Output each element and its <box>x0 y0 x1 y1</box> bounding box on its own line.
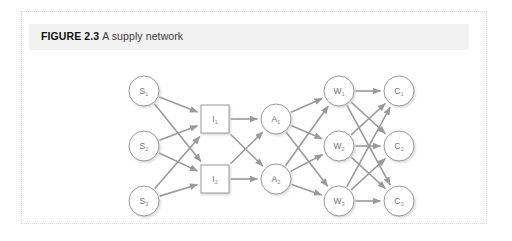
network-node-w2: W2 <box>324 131 354 161</box>
network-edge <box>159 97 197 112</box>
supply-network-diagram: S1S2S3I1I2A1A2W1W2W3C1C2C3 <box>22 12 488 225</box>
node-subscript: 1 <box>277 119 280 125</box>
network-node-s2: S2 <box>129 131 159 161</box>
node-subscript: 3 <box>401 201 404 207</box>
node-subscript: 1 <box>401 91 404 97</box>
network-edge <box>351 159 385 190</box>
network-edge <box>160 184 198 196</box>
network-node-c2: C2 <box>384 131 414 161</box>
network-edge <box>286 132 328 186</box>
network-node-c1: C1 <box>384 76 414 106</box>
node-subscript: 2 <box>277 179 280 185</box>
node-subscript: 2 <box>215 179 218 185</box>
node-subscript: 1 <box>215 119 218 125</box>
network-node-c3: C3 <box>384 186 414 216</box>
network-edge <box>231 134 263 166</box>
network-node-w1: W1 <box>324 76 354 106</box>
node-subscript: 1 <box>145 91 148 97</box>
network-node-a2: A2 <box>261 164 291 194</box>
network-node-i2: I2 <box>201 165 229 193</box>
network-edge <box>159 126 197 140</box>
node-subscript: 2 <box>401 146 404 152</box>
network-edge <box>351 102 385 133</box>
network-node-a1: A1 <box>261 104 291 134</box>
network-node-s1: S1 <box>129 76 159 106</box>
figure-panel: FIGURE 2.3 A supply network S1S2S3I1I2A1… <box>21 11 487 224</box>
node-subscript: 3 <box>145 201 148 207</box>
network-edge <box>291 155 323 172</box>
network-node-i1: I1 <box>201 105 229 133</box>
network-edge <box>231 132 263 164</box>
network-edge <box>351 157 385 188</box>
node-subscript: 3 <box>341 201 344 207</box>
network-node-w3: W3 <box>324 186 354 216</box>
node-subscript: 1 <box>341 91 344 97</box>
network-edge <box>155 137 200 189</box>
network-node-s3: S3 <box>129 186 159 216</box>
node-subscript: 2 <box>145 146 148 152</box>
network-edge <box>291 99 322 113</box>
network-edge <box>292 184 322 194</box>
network-edge <box>286 106 329 166</box>
node-subscript: 2 <box>341 146 344 152</box>
network-edge <box>351 104 385 135</box>
